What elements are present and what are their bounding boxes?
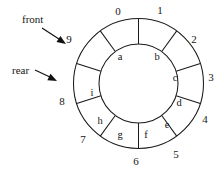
index-number-5: 5 xyxy=(173,148,179,160)
slot-letter-b: b xyxy=(154,51,159,62)
index-number-6: 6 xyxy=(133,155,139,167)
slot-divider-1 xyxy=(162,31,177,52)
index-number-3: 3 xyxy=(208,71,214,83)
slot-letter-g: g xyxy=(117,129,123,140)
slot-letter-h: h xyxy=(97,115,103,126)
slot-letter-f: f xyxy=(144,129,148,140)
index-number-7: 7 xyxy=(80,133,86,145)
index-number-4: 4 xyxy=(202,113,208,125)
slot-divider-9 xyxy=(100,31,115,52)
index-number-1: 1 xyxy=(157,4,163,16)
index-number-8: 8 xyxy=(59,95,65,107)
slot-letter-a: a xyxy=(118,51,123,62)
slot-divider-8 xyxy=(77,63,101,71)
pointer-arrows: frontrear xyxy=(12,13,66,81)
slot-divider-2 xyxy=(176,63,200,71)
circular-queue-diagram: abcdefghi 0123456789 frontrear xyxy=(0,0,223,173)
slot-divider-7 xyxy=(77,96,101,104)
slot-letter-d: d xyxy=(176,97,182,108)
slot-letter-c: c xyxy=(173,72,178,83)
index-number-0: 0 xyxy=(115,5,121,17)
slot-letter-e: e xyxy=(165,119,170,130)
boundary-index-numbers: 0123456789 xyxy=(59,4,214,167)
ring-diagram-canvas: abcdefghi 0123456789 frontrear xyxy=(0,0,223,173)
slot-letter-i: i xyxy=(91,87,94,98)
inner-circle xyxy=(99,44,178,123)
radial-dividers xyxy=(77,19,201,149)
pointer-label-front: front xyxy=(22,13,43,25)
pointer-arrow-head-rear xyxy=(47,74,57,81)
pointer-arrow-head-front xyxy=(56,36,66,44)
pointer-label-rear: rear xyxy=(12,64,29,76)
index-number-2: 2 xyxy=(191,33,197,45)
index-number-9: 9 xyxy=(66,33,72,45)
